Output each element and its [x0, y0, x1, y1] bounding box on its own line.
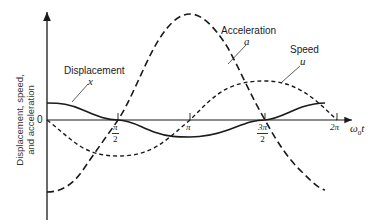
- y-axis-label: Displacement, speed, and acceleration: [14, 50, 36, 190]
- displacement-label: Displacement: [64, 66, 125, 76]
- origin-label: 0: [37, 115, 43, 125]
- tick-label-2pi: 2π: [330, 123, 339, 132]
- tick-marks: [118, 113, 337, 120]
- y-axis-label-line2: and acceleration: [25, 50, 36, 190]
- displacement-leader: [72, 84, 88, 102]
- speed-label: Speed: [290, 45, 319, 55]
- speed-symbol: u: [300, 56, 306, 67]
- speed-leader: [282, 66, 300, 82]
- acceleration-symbol: a: [244, 36, 250, 47]
- plot-canvas: [0, 0, 379, 224]
- speed-curve: [47, 81, 337, 156]
- tick-label-pi-over-2: π2: [112, 123, 119, 144]
- y-axis-label-line1: Displacement, speed,: [14, 50, 25, 190]
- tick-label-3pi-over-2: 3π2: [257, 123, 268, 144]
- displacement-symbol: x: [88, 76, 93, 87]
- acceleration-curve: [47, 14, 325, 192]
- tick-label-pi: π: [186, 123, 191, 132]
- x-axis-label: ω0t: [350, 123, 364, 137]
